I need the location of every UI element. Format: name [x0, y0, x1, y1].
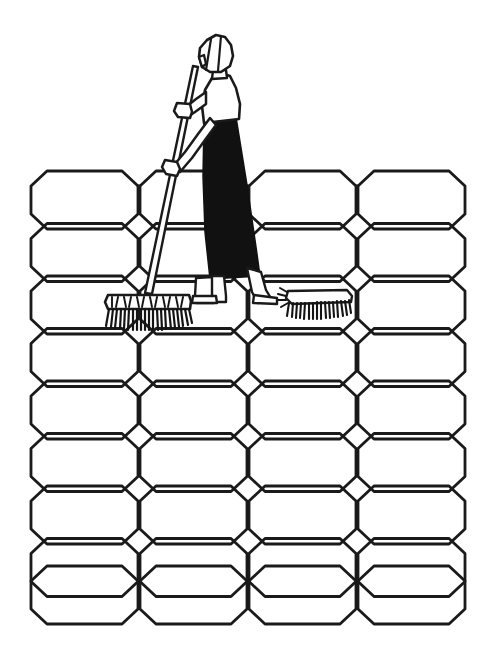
foot-left	[192, 296, 217, 303]
hand-lower	[162, 160, 180, 176]
hand-upper	[174, 103, 192, 118]
illustration-svg	[0, 0, 497, 666]
illustration-canvas: A woman wearing a headscarf and a long d…	[0, 0, 497, 666]
foot-right	[253, 295, 277, 304]
